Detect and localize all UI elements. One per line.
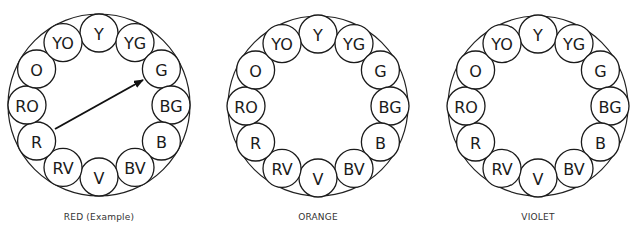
swatch-label: V	[313, 170, 324, 189]
swatch-label: RV	[271, 160, 292, 179]
swatch-label: V	[533, 170, 544, 189]
swatch-bg: BG	[591, 87, 629, 125]
swatch-label: R	[470, 134, 481, 153]
wheel-caption: VIOLET	[521, 212, 555, 222]
wheel-violet: YYGGBGBBVVRVRROOYO VIOLET	[447, 15, 629, 222]
swatch-label: O	[30, 61, 43, 80]
swatch-v: V	[519, 159, 557, 197]
wheel-caption: RED (Example)	[64, 212, 134, 222]
swatch-label: BG	[598, 98, 621, 117]
swatch-label: BV	[124, 159, 145, 178]
swatch-g: G	[581, 51, 619, 89]
swatch-label: YG	[342, 35, 365, 54]
swatch-label: RO	[15, 97, 39, 116]
swatch-label: BV	[343, 160, 364, 179]
swatch-label: BG	[378, 98, 401, 117]
swatch-label: YO	[270, 35, 293, 54]
swatch-bg: BG	[371, 87, 409, 125]
swatch-label: V	[94, 169, 105, 188]
swatch-label: O	[469, 62, 482, 81]
swatch-label: YO	[51, 34, 74, 53]
wheel-red: YYGGBGBBVVRVRROOYO RED (Example)	[8, 14, 190, 222]
swatch-label: G	[594, 62, 606, 81]
swatch-v: V	[299, 159, 337, 197]
swatch-y: Y	[80, 14, 118, 52]
diagram-canvas: YYGGBGBBVVRVRROOYO RED (Example) YYGGBGB…	[0, 0, 638, 232]
swatch-label: B	[375, 134, 386, 153]
swatch-bv: BV	[555, 149, 593, 187]
swatch-r: R	[18, 122, 56, 160]
swatch-yo: YO	[44, 24, 82, 62]
swatch-y: Y	[299, 15, 337, 53]
wheel-orange: YYGGBGBBVVRVRROOYO ORANGE	[227, 15, 409, 222]
swatch-ro: RO	[8, 86, 46, 124]
swatch-label: O	[249, 62, 262, 81]
swatch-label: YG	[123, 34, 146, 53]
swatch-bg: BG	[152, 86, 190, 124]
swatch-label: Y	[93, 25, 104, 44]
swatch-label: YO	[490, 35, 513, 54]
swatch-label: YG	[562, 35, 585, 54]
swatch-g: G	[142, 50, 180, 88]
swatch-yo: YO	[483, 25, 521, 63]
swatch-label: G	[155, 61, 167, 80]
swatch-label: B	[156, 133, 167, 152]
swatch-ro: RO	[447, 87, 485, 125]
swatch-y: Y	[519, 15, 557, 53]
swatch-label: BV	[563, 160, 584, 179]
swatch-v: V	[80, 158, 118, 196]
complement-arrow	[55, 80, 143, 129]
swatch-bv: BV	[335, 149, 373, 187]
swatch-label: Y	[532, 26, 543, 45]
swatch-r: R	[457, 123, 495, 161]
swatch-label: G	[374, 62, 386, 81]
swatch-label: RO	[454, 98, 478, 117]
color-wheel-diagram: YYGGBGBBVVRVRROOYO RED (Example) YYGGBGB…	[0, 0, 638, 232]
swatch-bv: BV	[116, 148, 154, 186]
swatch-ro: RO	[227, 87, 265, 125]
swatch-g: G	[361, 51, 399, 89]
swatch-label: RV	[491, 160, 512, 179]
swatch-label: RO	[234, 98, 258, 117]
swatch-label: R	[31, 133, 42, 152]
swatch-label: B	[595, 134, 606, 153]
swatch-label: Y	[312, 26, 323, 45]
wheel-caption: ORANGE	[298, 212, 338, 222]
swatch-yo: YO	[263, 25, 301, 63]
swatch-label: BG	[159, 97, 182, 116]
swatch-r: R	[237, 123, 275, 161]
swatch-label: RV	[52, 159, 73, 178]
swatch-label: R	[250, 134, 261, 153]
